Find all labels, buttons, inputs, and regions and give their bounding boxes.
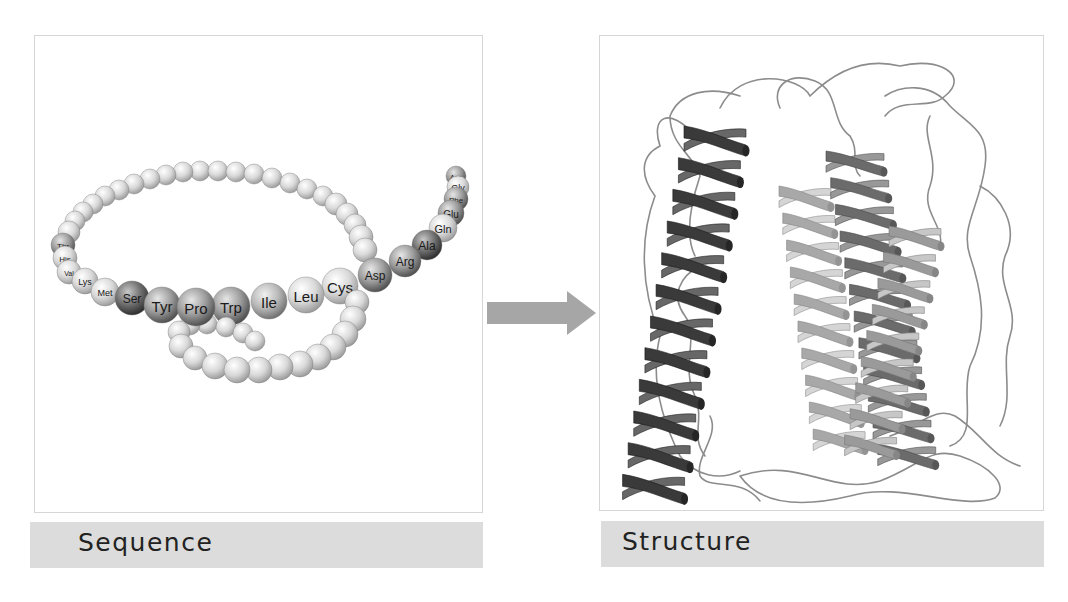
- loop-coil: [740, 453, 1000, 502]
- residue-label: Asp: [365, 269, 386, 283]
- residue-label: Pro: [184, 300, 207, 317]
- residue-bead-pro: Pro: [177, 288, 215, 326]
- residue-label: Met: [97, 288, 113, 298]
- arrow-right-icon: [485, 289, 600, 337]
- residue-bead-tyr: Tyr: [144, 287, 180, 323]
- residue-label: Arg: [396, 255, 415, 269]
- sequence-caption-bar: Sequence: [30, 522, 483, 568]
- residue-bead-asp: Asp: [358, 258, 392, 292]
- residue-label: Trp: [220, 299, 242, 316]
- loop-coil: [927, 116, 941, 246]
- residue-bead: [224, 357, 250, 383]
- residue-bead-met: Met: [91, 278, 119, 306]
- residue-label: Val: [64, 270, 74, 277]
- residue-bead: [208, 161, 228, 181]
- arrow-shape: [487, 291, 596, 335]
- loop-coil: [720, 63, 954, 116]
- residue-bead: [244, 164, 264, 184]
- residue-bead-ser: Ser: [115, 281, 149, 315]
- residue-bead: [202, 353, 228, 379]
- residue-label: Tyr: [152, 298, 173, 315]
- residue-label: Ile: [261, 294, 277, 311]
- residue-bead-ile: Ile: [251, 283, 287, 319]
- amino-acid-chain-illustration: AsnGlyPheGluGlnThrAlaHisArgValLysAspMetC…: [35, 36, 484, 514]
- residue-bead-leu: Leu: [288, 277, 324, 313]
- residue-label: Leu: [293, 288, 318, 305]
- loop-coil: [980, 186, 1012, 426]
- structure-panel: [599, 35, 1044, 511]
- structure-caption: Structure: [622, 527, 752, 556]
- residue-label: Ser: [123, 292, 142, 306]
- sequence-panel: AsnGlyPheGluGlnThrAlaHisArgValLysAspMetC…: [34, 35, 483, 513]
- residue-label: Ala: [418, 239, 436, 253]
- residue-bead: [245, 331, 265, 351]
- residue-bead: [173, 162, 193, 182]
- residue-label: Gln: [434, 223, 451, 235]
- residue-bead: [226, 162, 246, 182]
- alpha-helix-1: [623, 126, 750, 505]
- residue-label: Lys: [78, 277, 92, 287]
- sequence-caption: Sequence: [78, 528, 213, 557]
- protein-structure-illustration: [600, 36, 1045, 512]
- residue-bead-arg: Arg: [389, 245, 421, 277]
- structure-caption-bar: Structure: [601, 521, 1044, 567]
- residue-bead: [262, 168, 282, 188]
